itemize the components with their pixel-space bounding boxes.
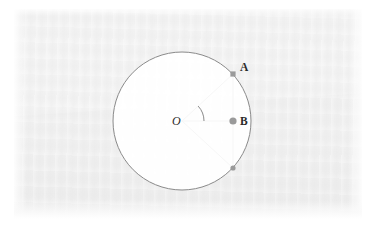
point-marker-A bbox=[230, 71, 235, 76]
geometry-canvas: OAB bbox=[0, 0, 376, 231]
point-marker-C bbox=[230, 165, 235, 170]
point-label-B: B bbox=[240, 115, 248, 127]
point-marker-B bbox=[229, 117, 236, 124]
point-label-A: A bbox=[240, 61, 249, 73]
figure-root: OAB bbox=[0, 0, 376, 231]
point-label-O: O bbox=[172, 114, 181, 128]
